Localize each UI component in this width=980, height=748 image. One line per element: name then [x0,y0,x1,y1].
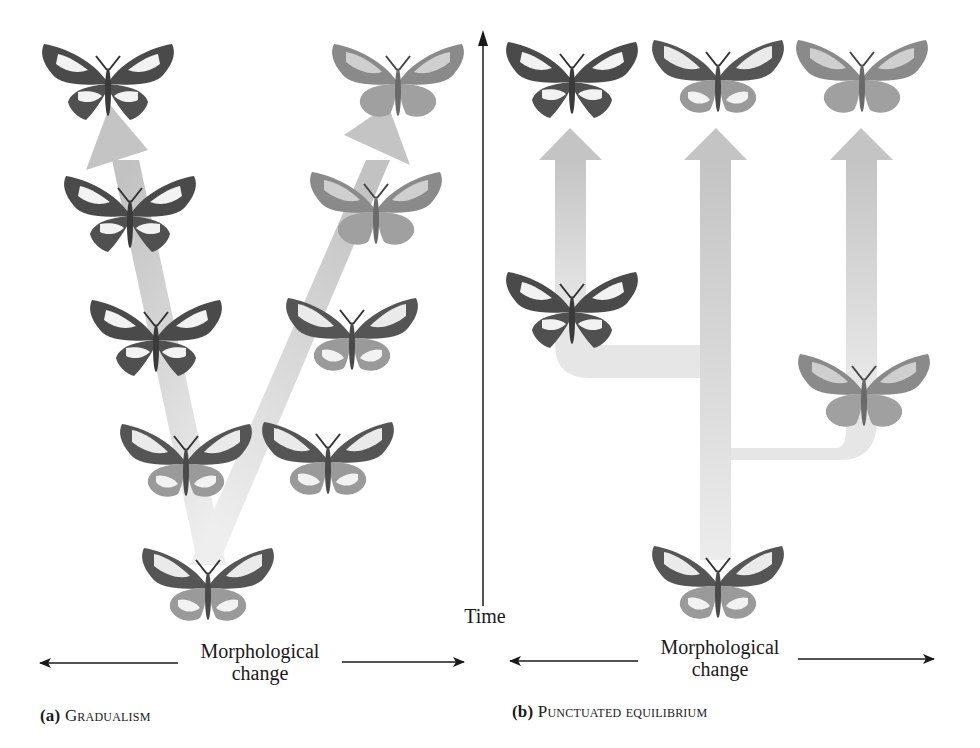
caption-a: (a) Gradualism [40,706,151,726]
punctuated-left-branch [539,128,700,378]
morph-label-b: Morphological change [630,636,810,680]
butterfly-a-right-gen5 [332,44,464,117]
morph-label-a-line2: change [170,662,350,684]
morph-label-a: Morphological change [170,640,350,684]
caption-b: (b) Punctuated equilibrium [512,702,707,722]
caption-a-letter: (a) [40,706,60,725]
time-axis-label: Time [440,605,530,627]
butterfly-b-right-top [796,40,928,113]
punctuated-center-arrow [684,128,747,560]
butterfly-a-right-gen2 [262,422,394,495]
morph-label-a-line1: Morphological [170,640,350,662]
butterfly-b-left-top [506,42,638,118]
butterfly-b-center-top [652,40,784,113]
caption-b-title: Punctuated equilibrium [538,702,707,721]
caption-a-title: Gradualism [65,706,151,725]
diagram-graphics [0,0,980,748]
evolution-diagram: Time Morphological change Morphological … [0,0,980,748]
morph-label-b-line2: change [630,658,810,680]
time-axis-arrowhead-icon [478,30,488,46]
caption-b-letter: (b) [512,702,533,721]
butterfly-a-right-gen3 [286,298,418,371]
morph-label-b-line1: Morphological [630,636,810,658]
butterfly-a-left-gen5 [42,44,174,120]
